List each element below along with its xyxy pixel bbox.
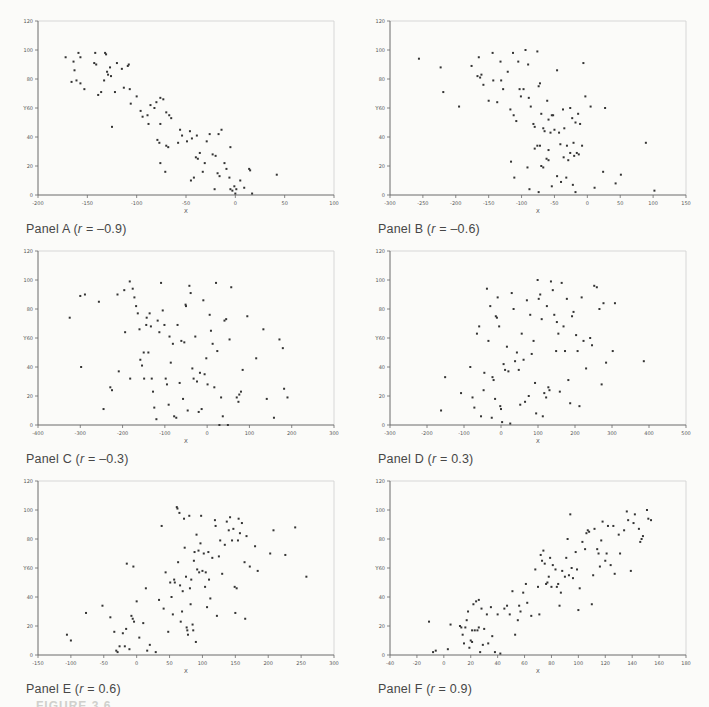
svg-text:100: 100 [245, 430, 255, 436]
svg-text:-20: -20 [413, 660, 421, 666]
caption-value: = 0.3) [436, 452, 473, 466]
caption-text: Panel F ( [378, 682, 431, 696]
svg-text:-50: -50 [100, 660, 108, 666]
scatter-panel-b: -300-250-200-150-100-5005010015002040608… [352, 14, 704, 244]
svg-text:120: 120 [600, 660, 610, 666]
svg-text:160: 160 [654, 660, 664, 666]
svg-text:50: 50 [281, 200, 287, 206]
svg-text:100: 100 [23, 507, 33, 513]
svg-text:20: 20 [27, 393, 33, 399]
caption-value: = 0.9) [435, 682, 472, 696]
caption-text: Panel A ( [26, 222, 78, 236]
svg-text:120: 120 [23, 18, 33, 24]
svg-text:-300: -300 [75, 430, 86, 436]
svg-text:80: 80 [27, 76, 33, 82]
scatter-plot-a: -200-150-100-50050100020406080100120XY [2, 14, 340, 220]
svg-text:-100: -100 [516, 200, 527, 206]
panel-caption-d: Panel D (r = 0.3) [378, 452, 704, 466]
svg-text:80: 80 [379, 76, 385, 82]
svg-text:200: 200 [570, 430, 580, 436]
svg-text:100: 100 [648, 200, 658, 206]
panel-caption-b: Panel B (r = –0.6) [378, 222, 704, 236]
svg-text:80: 80 [548, 660, 554, 666]
svg-text:20: 20 [468, 660, 474, 666]
svg-text:0: 0 [442, 660, 445, 666]
svg-text:100: 100 [533, 430, 543, 436]
svg-text:60: 60 [27, 105, 33, 111]
svg-text:Y: Y [374, 105, 379, 111]
svg-text:180: 180 [681, 660, 691, 666]
svg-text:X: X [536, 438, 540, 444]
scatter-plot-f: -40-200204060801001201401601800204060801… [354, 474, 692, 680]
svg-text:80: 80 [379, 536, 385, 542]
svg-text:120: 120 [375, 18, 385, 24]
svg-text:-200: -200 [450, 200, 461, 206]
svg-text:Y: Y [22, 335, 27, 341]
svg-text:40: 40 [494, 660, 500, 666]
svg-text:50: 50 [617, 200, 623, 206]
scatter-plot-d: -300-200-1000100200300400500020406080100… [354, 244, 692, 450]
figure-page: -200-150-100-50050100020406080100120XY P… [0, 0, 709, 707]
svg-text:120: 120 [23, 478, 33, 484]
svg-text:20: 20 [27, 623, 33, 629]
svg-text:40: 40 [27, 594, 33, 600]
caption-text: Panel C ( [26, 452, 80, 466]
svg-text:X: X [184, 668, 188, 674]
svg-text:20: 20 [379, 163, 385, 169]
svg-text:X: X [536, 668, 540, 674]
caption-value: = 0.6) [84, 682, 121, 696]
svg-text:20: 20 [379, 623, 385, 629]
svg-text:0: 0 [586, 200, 589, 206]
scatter-panel-f: -40-200204060801001201401601800204060801… [352, 474, 704, 704]
svg-text:60: 60 [521, 660, 527, 666]
svg-text:100: 100 [23, 47, 33, 53]
svg-text:0: 0 [382, 652, 385, 658]
svg-text:60: 60 [27, 565, 33, 571]
svg-text:X: X [184, 208, 188, 214]
svg-text:140: 140 [627, 660, 637, 666]
svg-text:0: 0 [234, 200, 237, 206]
svg-text:120: 120 [375, 478, 385, 484]
svg-text:500: 500 [681, 430, 691, 436]
svg-text:-50: -50 [182, 200, 190, 206]
svg-text:100: 100 [329, 200, 339, 206]
svg-text:400: 400 [644, 430, 654, 436]
svg-text:100: 100 [375, 277, 385, 283]
svg-text:-150: -150 [32, 660, 43, 666]
svg-text:120: 120 [375, 248, 385, 254]
svg-text:40: 40 [27, 364, 33, 370]
svg-text:X: X [184, 438, 188, 444]
svg-text:-200: -200 [421, 430, 432, 436]
svg-text:60: 60 [27, 335, 33, 341]
svg-text:0: 0 [382, 192, 385, 198]
svg-text:100: 100 [574, 660, 584, 666]
svg-text:-300: -300 [384, 430, 395, 436]
svg-text:-100: -100 [159, 430, 170, 436]
panel-caption-f: Panel F (r = 0.9) [378, 682, 704, 696]
svg-text:60: 60 [379, 105, 385, 111]
caption-text: Panel B ( [378, 222, 431, 236]
svg-text:-100: -100 [458, 430, 469, 436]
svg-text:-300: -300 [384, 200, 395, 206]
svg-text:50: 50 [166, 660, 172, 666]
panel-caption-e: Panel E (r = 0.6) [26, 682, 352, 696]
svg-text:150: 150 [231, 660, 241, 666]
caption-text: Panel D ( [378, 452, 432, 466]
scatter-panel-a: -200-150-100-50050100020406080100120XY P… [0, 14, 352, 244]
svg-text:0: 0 [206, 430, 209, 436]
svg-text:100: 100 [375, 47, 385, 53]
svg-text:0: 0 [30, 422, 33, 428]
caption-value: = –0.6) [436, 222, 480, 236]
figure-label: FIGURE 3.6 [36, 699, 111, 707]
caption-value: = –0.9) [82, 222, 126, 236]
svg-text:100: 100 [375, 507, 385, 513]
svg-text:-200: -200 [32, 200, 43, 206]
scatter-panel-e: -150-100-5005010015020025030002040608010… [0, 474, 352, 704]
svg-text:-40: -40 [386, 660, 394, 666]
svg-text:300: 300 [329, 430, 339, 436]
svg-text:100: 100 [23, 277, 33, 283]
panel-grid: -200-150-100-50050100020406080100120XY P… [0, 0, 709, 704]
svg-text:20: 20 [27, 163, 33, 169]
svg-text:Y: Y [374, 335, 379, 341]
svg-text:-250: -250 [417, 200, 428, 206]
